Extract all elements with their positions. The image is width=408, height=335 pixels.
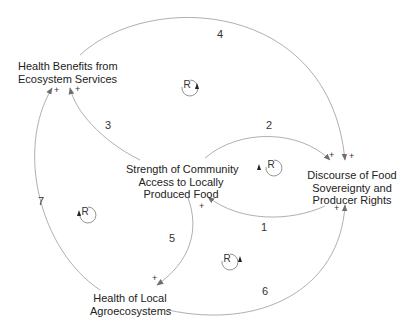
loop-type-label: R [262, 159, 280, 170]
node-label: Strength of Community [126, 163, 236, 176]
link-label-2: 2 [266, 119, 272, 131]
node-label: Produced Food [126, 188, 236, 201]
node-label: Health of Local [90, 292, 170, 305]
loop-type-label: R [76, 206, 94, 217]
node-label: Ecosystem Services [18, 73, 118, 86]
polarity-sign: + [329, 150, 334, 160]
node-label: Agroecosystems [90, 305, 170, 318]
node-strength-of-community-access: Strength of Community Access to Locally … [126, 163, 236, 201]
polarity-sign: + [75, 84, 80, 94]
link-6 [168, 205, 345, 315]
node-label: Discourse of Food [300, 169, 404, 182]
loop-type-label: R [178, 79, 196, 90]
node-label: Health Benefits from [18, 60, 118, 73]
node-health-of-local-agroecosystems: Health of Local Agroecosystems [90, 292, 170, 317]
node-label: Access to Locally [126, 176, 236, 189]
link-7 [35, 88, 100, 290]
node-health-benefits: Health Benefits from Ecosystem Services [18, 60, 118, 85]
node-label: Producer Rights [300, 194, 404, 207]
node-discourse-food-sovereignty: Discourse of Food Sovereignty and Produc… [300, 169, 404, 207]
polarity-sign: + [54, 85, 59, 95]
loop-marker: R [262, 157, 280, 175]
loop-marker: R [178, 77, 196, 95]
link-label-3: 3 [105, 119, 111, 131]
polarity-sign: + [349, 151, 354, 161]
link-4 [80, 17, 345, 160]
link-label-1: 1 [261, 221, 267, 233]
polarity-sign: + [152, 273, 157, 283]
polarity-sign: + [334, 203, 339, 213]
link-label-4: 4 [217, 28, 223, 40]
loop-marker: R [76, 204, 94, 222]
link-label-7: 7 [38, 195, 44, 207]
link-label-5: 5 [169, 232, 175, 244]
polarity-sign: + [199, 201, 204, 211]
node-label: Sovereignty and [300, 182, 404, 195]
loop-marker: R [218, 251, 236, 269]
loop-type-label: R [218, 253, 236, 264]
link-label-6: 6 [262, 285, 268, 297]
